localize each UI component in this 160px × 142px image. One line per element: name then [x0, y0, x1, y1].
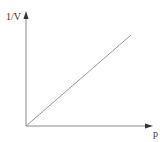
x-axis-arrow-icon	[145, 124, 153, 129]
y-axis-label: 1/V	[6, 12, 21, 22]
x-axis-label: p	[153, 129, 158, 139]
y-axis-arrow-icon	[24, 11, 29, 19]
plot-area	[0, 0, 160, 142]
data-line	[26, 35, 131, 126]
chart: 1/V p	[0, 0, 160, 142]
